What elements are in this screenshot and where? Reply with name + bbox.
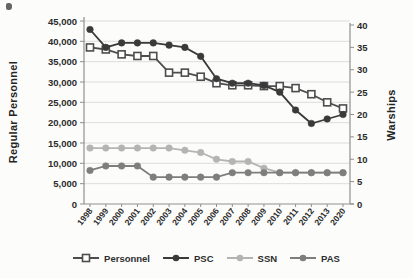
left-tick-label: 15,000: [48, 138, 77, 149]
x-tick-label: 2001: [122, 206, 142, 227]
series-SSN-marker: [103, 145, 110, 152]
legend-marker-psc-icon: [163, 252, 189, 264]
series-PAS-marker: [182, 174, 189, 181]
left-tick-label: 45,000: [48, 16, 77, 27]
legend-label-ssn: SSN: [258, 253, 278, 264]
series-SSN-marker: [166, 145, 173, 152]
series-SSN-marker: [134, 145, 141, 152]
legend-item-psc: PSC: [163, 252, 214, 264]
series-SSN-marker: [118, 145, 125, 152]
legend-label-pas: PAS: [321, 253, 340, 264]
series-PAS-marker: [245, 169, 252, 176]
series-Personnel-marker: [118, 51, 125, 58]
left-tick-label: 30,000: [48, 77, 77, 88]
x-tick-label: 1998: [75, 206, 95, 227]
series-Personnel-marker: [292, 85, 299, 92]
series-PSC-marker: [340, 111, 347, 118]
right-tick-label: 5: [357, 176, 363, 187]
series-PAS-marker: [292, 169, 299, 176]
right-tick-label: 25: [357, 87, 368, 98]
series-SSN-marker: [245, 158, 252, 165]
series-Personnel-marker: [308, 91, 315, 98]
right-tick-label: 30: [357, 64, 368, 75]
series-PAS-marker: [118, 163, 125, 170]
series-Personnel-marker: [134, 52, 141, 59]
series-PAS-marker: [340, 169, 347, 176]
series-Personnel-marker: [166, 69, 173, 76]
series-PSC-marker: [276, 89, 283, 96]
x-tick-label: 2003: [154, 206, 174, 227]
x-tick-label: 2013: [312, 206, 332, 227]
series-PSC-marker: [118, 40, 125, 47]
legend-marker-ssn-icon: [227, 252, 253, 264]
right-tick-label: 40: [357, 20, 368, 31]
series-SSN-marker: [150, 145, 157, 152]
series-PAS-marker: [261, 169, 268, 176]
series-PSC-marker: [182, 44, 189, 51]
legend-item-personnel: Personnel: [73, 252, 150, 264]
x-tick-label: 2011: [281, 206, 300, 227]
chart-plot-area: 05,00010,00015,00020,00025,00030,00035,0…: [0, 0, 413, 278]
series-PAS-marker: [134, 163, 141, 170]
legend-label-psc: PSC: [194, 253, 214, 264]
series-PSC-marker: [324, 116, 331, 123]
right-tick-label: 35: [357, 42, 368, 53]
series-SSN-marker: [229, 158, 236, 165]
legend-label-personnel: Personnel: [104, 253, 150, 264]
x-tick-label: 2000: [107, 206, 127, 227]
series-PAS-marker: [276, 169, 283, 176]
series-Personnel-marker: [340, 105, 347, 112]
right-tick-label: 20: [357, 109, 368, 120]
legend-item-ssn: SSN: [227, 252, 278, 264]
series-PAS-marker: [308, 169, 315, 176]
series-Personnel-marker: [324, 99, 331, 106]
series-PAS-marker: [324, 169, 331, 176]
series-PSC-marker: [87, 26, 94, 33]
series-PSC-marker: [245, 80, 252, 87]
series-PSC-marker: [261, 82, 268, 89]
series-Personnel-marker: [197, 73, 204, 80]
series-Personnel-marker: [276, 83, 283, 90]
left-tick-label: 0: [72, 199, 77, 210]
series-PAS-marker: [166, 174, 173, 181]
series-PAS-marker: [213, 174, 220, 181]
series-PAS-marker: [150, 174, 157, 181]
series-PSC-marker: [197, 53, 204, 60]
x-tick-label: 2012: [296, 206, 316, 227]
x-tick-label: 1999: [91, 206, 111, 227]
series-PSC-marker: [134, 40, 141, 47]
series-SSN-marker: [197, 149, 204, 156]
x-tick-label: 2020: [328, 206, 348, 227]
left-tick-label: 40,000: [48, 36, 77, 47]
series-Personnel-marker: [150, 52, 157, 59]
left-tick-label: 20,000: [48, 117, 77, 128]
left-tick-label: 5,000: [53, 178, 77, 189]
left-tick-label: 10,000: [48, 158, 77, 169]
series-PSC-marker: [150, 40, 157, 47]
left-tick-label: 25,000: [48, 97, 77, 108]
right-tick-label: 10: [357, 154, 368, 165]
series-SSN-marker: [87, 145, 94, 152]
x-tick-label: 2008: [233, 206, 253, 227]
series-PSC-marker: [166, 42, 173, 49]
x-tick-label: 2006: [202, 206, 222, 227]
x-tick-label: 2004: [170, 206, 190, 227]
legend-marker-pas-icon: [290, 252, 316, 264]
legend-marker-personnel-icon: [73, 252, 99, 264]
series-PAS-marker: [197, 174, 204, 181]
series-PSC-marker: [308, 120, 315, 127]
series-PAS-marker: [87, 167, 94, 174]
x-tick-label: 2007: [217, 206, 237, 227]
x-tick-label: 2005: [186, 206, 206, 227]
x-tick-label: 2010: [265, 206, 285, 227]
series-Personnel-marker: [181, 69, 188, 76]
series-PSC-marker: [103, 44, 110, 51]
series-PAS-marker: [103, 163, 110, 170]
series-SSN-marker: [213, 156, 220, 163]
right-tick-label: 0: [357, 199, 362, 210]
left-tick-label: 35,000: [48, 56, 77, 67]
x-tick-label: 2002: [138, 206, 158, 227]
series-PSC-marker: [229, 80, 236, 87]
series-Personnel-marker: [87, 44, 94, 51]
legend-item-pas: PAS: [290, 252, 340, 264]
